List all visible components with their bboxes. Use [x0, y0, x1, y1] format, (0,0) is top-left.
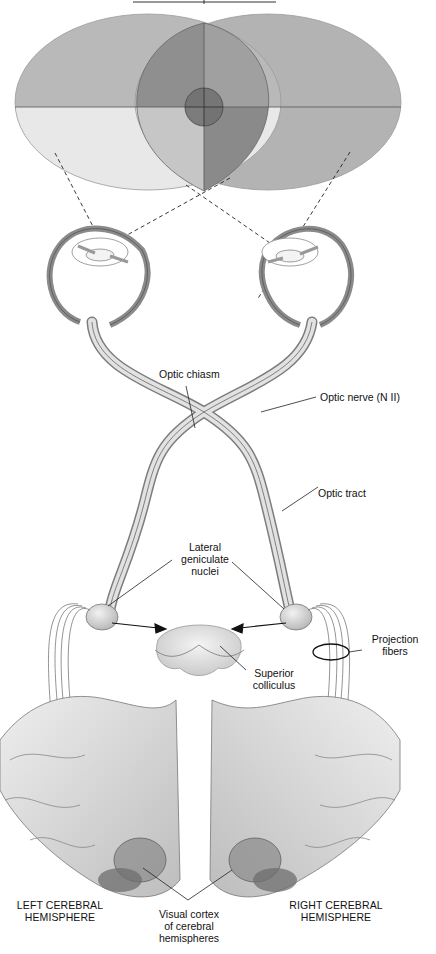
label-optic-nerve: Optic nerve (N II): [320, 391, 400, 403]
title-underline: [133, 0, 276, 4]
left-eye: [50, 229, 148, 325]
right-lgn: [280, 604, 312, 630]
label-left-cerebral-hemisphere: LEFT CEREBRAL HEMISPHERE: [10, 899, 110, 923]
visual-pathway-diagram: [0, 0, 436, 954]
left-lgn: [86, 604, 118, 630]
label-projection-fibers: Projection fibers: [366, 633, 424, 657]
visual-field: [0, 0, 436, 207]
label-superior-colliculus: Superior colliculus: [244, 667, 304, 691]
right-eye: [262, 229, 351, 325]
right-cerebral-hemisphere: [210, 696, 400, 897]
label-optic-chiasm: Optic chiasm: [159, 368, 220, 380]
left-cerebral-hemisphere: [0, 696, 180, 897]
superior-colliculus: [155, 625, 244, 676]
label-lateral-geniculate-nuclei: Lateral geniculate nuclei: [175, 541, 235, 577]
label-visual-cortex: Visual cortex of cerebral hemispheres: [153, 908, 225, 944]
label-optic-tract: Optic tract: [318, 487, 366, 499]
projection-fibers-ring: [313, 644, 349, 660]
label-right-cerebral-hemisphere: RIGHT CEREBRAL HEMISPHERE: [281, 899, 391, 923]
